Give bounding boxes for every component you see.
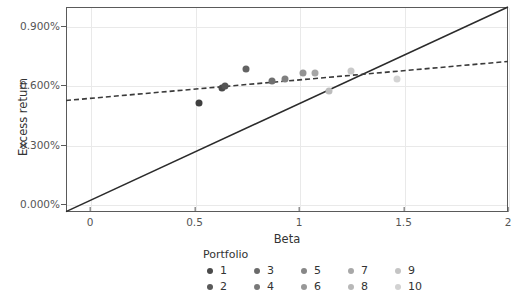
legend-row: 246810 xyxy=(203,280,515,293)
gridline-horizontal xyxy=(67,146,507,147)
x-tick-mark xyxy=(299,207,300,212)
legend-item[interactable]: 7 xyxy=(344,264,391,277)
y-axis-title: Excess return xyxy=(16,47,30,187)
legend-dot-icon xyxy=(301,284,307,290)
gridline-horizontal xyxy=(67,86,507,87)
legend-item-label: 5 xyxy=(314,264,321,277)
legend-dot-icon xyxy=(395,284,401,290)
legend-item[interactable]: 6 xyxy=(297,280,344,293)
data-point[interactable] xyxy=(311,69,318,76)
data-point[interactable] xyxy=(268,77,275,84)
data-point[interactable] xyxy=(348,67,355,74)
gridline-vertical xyxy=(196,8,197,211)
plot-area xyxy=(66,7,508,212)
x-tick-label: 0.5 xyxy=(186,216,203,228)
x-tick-label: 0 xyxy=(87,216,94,228)
legend-item[interactable]: 10 xyxy=(391,280,438,293)
y-tick-mark xyxy=(61,26,66,27)
gridline-vertical xyxy=(300,8,301,211)
legend-item-label: 9 xyxy=(408,264,415,277)
data-point[interactable] xyxy=(242,66,249,73)
y-tick-label: 0.000% xyxy=(20,198,60,210)
chart-root: 00.511.52 0.000%0.300%0.600%0.900% Beta … xyxy=(0,0,515,302)
legend-dot-icon xyxy=(254,284,260,290)
legend-dot-icon xyxy=(207,284,213,290)
y-tick-mark xyxy=(61,204,66,205)
gridline-horizontal xyxy=(67,27,507,28)
legend-item-label: 10 xyxy=(408,280,422,293)
legend-item-label: 2 xyxy=(220,280,227,293)
gridline-vertical xyxy=(509,8,510,211)
legend-dot-icon xyxy=(301,268,307,274)
legend-dot-icon xyxy=(395,268,401,274)
legend-dot-icon xyxy=(254,268,260,274)
data-point[interactable] xyxy=(300,70,307,77)
legend-item[interactable]: 8 xyxy=(344,280,391,293)
legend-item[interactable]: 5 xyxy=(297,264,344,277)
y-tick-mark xyxy=(61,85,66,86)
data-point[interactable] xyxy=(221,82,228,89)
legend-item-label: 4 xyxy=(267,280,274,293)
legend-item[interactable]: 3 xyxy=(250,264,297,277)
x-axis-title: Beta xyxy=(66,232,508,246)
gridline-vertical xyxy=(91,8,92,211)
data-point[interactable] xyxy=(282,76,289,83)
legend-item-label: 7 xyxy=(361,264,368,277)
legend-dot-icon xyxy=(348,284,354,290)
y-tick-mark xyxy=(61,145,66,146)
x-tick-mark xyxy=(508,207,509,212)
data-point[interactable] xyxy=(326,87,333,94)
legend-item[interactable]: 1 xyxy=(203,264,250,277)
x-tick-label: 1 xyxy=(296,216,303,228)
legend-rows: 13579246810 xyxy=(203,264,515,293)
x-tick-mark xyxy=(403,207,404,212)
legend-item-label: 1 xyxy=(220,264,227,277)
legend-dot-icon xyxy=(348,268,354,274)
data-point[interactable] xyxy=(195,100,202,107)
legend-item[interactable]: 2 xyxy=(203,280,250,293)
gridline-vertical xyxy=(405,8,406,211)
legend: Portfolio 13579246810 xyxy=(0,248,515,293)
y-tick-label: 0.900% xyxy=(20,20,60,32)
legend-item[interactable]: 9 xyxy=(391,264,438,277)
legend-item[interactable]: 4 xyxy=(250,280,297,293)
legend-row: 13579 xyxy=(203,264,515,277)
gridline-horizontal xyxy=(67,205,507,206)
legend-item-label: 8 xyxy=(361,280,368,293)
data-point[interactable] xyxy=(394,76,401,83)
x-tick-mark xyxy=(90,207,91,212)
x-tick-mark xyxy=(195,207,196,212)
legend-title: Portfolio xyxy=(203,248,515,261)
legend-item-label: 3 xyxy=(267,264,274,277)
legend-item-label: 6 xyxy=(314,280,321,293)
legend-dot-icon xyxy=(207,268,213,274)
x-tick-label: 1.5 xyxy=(395,216,412,228)
x-tick-label: 2 xyxy=(505,216,512,228)
